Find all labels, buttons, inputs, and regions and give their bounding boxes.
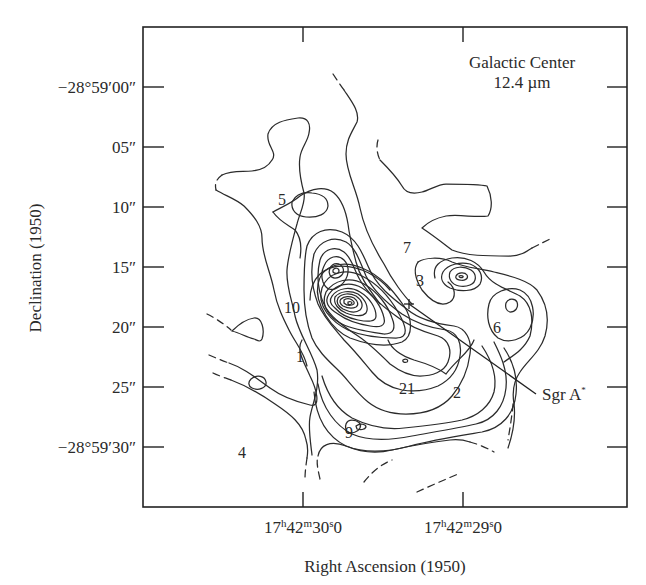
y-tick-label: −28°59′00″ xyxy=(58,78,136,97)
y-tick-label: −28°59′30″ xyxy=(58,438,136,457)
y-tick-label: 20″ xyxy=(112,318,136,337)
sgr-a-label: Sgr A* xyxy=(542,385,586,404)
x-tick-label: 17h42m30s0 xyxy=(264,517,342,537)
source-label-9: 9 xyxy=(345,424,353,441)
source-label-4: 4 xyxy=(238,444,246,461)
source-label-7: 7 xyxy=(403,239,411,256)
source-label-10: 10 xyxy=(284,299,300,316)
sgr-a-pointer-line xyxy=(409,304,536,394)
source-label-3: 3 xyxy=(416,272,424,289)
x-tick-label: 17h42m29s0 xyxy=(424,517,502,537)
chart-subtitle: 12.4 µm xyxy=(493,73,550,92)
sgr-a-marker xyxy=(404,299,536,394)
y-axis-label: Declination (1950) xyxy=(26,204,45,333)
x-axis-label: Right Ascension (1950) xyxy=(304,557,466,576)
contour-figure: 571036121294 Galactic Center 12.4 µm Sgr… xyxy=(0,0,646,585)
x-tick-labels: 17h42m30s017h42m29s0 xyxy=(264,517,502,537)
y-tick-label: 10″ xyxy=(112,198,136,217)
sgr-a-label-star: * xyxy=(581,385,586,395)
y-tick-label: 15″ xyxy=(112,258,136,277)
chart-title: Galactic Center xyxy=(469,53,576,72)
sgr-a-label-text: Sgr A xyxy=(542,385,582,404)
source-label-1: 1 xyxy=(296,348,304,365)
source-label-6: 6 xyxy=(493,319,501,336)
source-label-21: 21 xyxy=(399,380,415,397)
y-tick-label: 25″ xyxy=(112,378,136,397)
contour-lines xyxy=(207,74,552,492)
contour-plot: 571036121294 Galactic Center 12.4 µm Sgr… xyxy=(0,0,646,585)
y-tick-label: 05″ xyxy=(112,138,136,157)
source-label-5: 5 xyxy=(278,191,286,208)
source-label-2: 2 xyxy=(453,384,461,401)
y-tick-labels: −28°59′00″05″10″15″20″25″−28°59′30″ xyxy=(58,78,136,457)
